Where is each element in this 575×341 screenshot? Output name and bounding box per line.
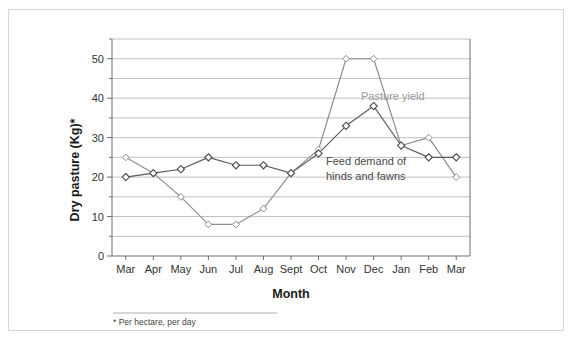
y-tick-label: 10 [92, 211, 104, 223]
x-tick-label: Jan [392, 263, 410, 275]
x-tick-label: Jul [229, 263, 243, 275]
data-point-marker [425, 154, 432, 161]
figure-frame: 01020304050 MarAprMayJunJulAugSeptOctNov… [8, 9, 564, 331]
data-point-marker [233, 221, 240, 228]
data-point-marker [232, 162, 239, 169]
x-axis-ticks-group: MarAprMayJunJulAugSeptOctNovDecJanFebMar [116, 256, 466, 275]
data-point-marker [453, 174, 460, 181]
x-tick-label: Jun [200, 263, 218, 275]
data-point-marker [260, 162, 267, 169]
chart-area: 01020304050 MarAprMayJunJulAugSeptOctNov… [9, 10, 565, 332]
y-tick-label: 30 [92, 132, 104, 144]
x-tick-label: May [170, 263, 191, 275]
annotation-pasture-yield: Pasture yield [361, 90, 425, 102]
y-tick-label: 20 [92, 171, 104, 183]
y-tick-label: 0 [98, 250, 104, 262]
annotation-feed-demand-line1: Feed demand of [326, 155, 407, 167]
y-tick-label: 40 [92, 92, 104, 104]
x-tick-label: Mar [447, 263, 466, 275]
series-markers-feed-demand [122, 102, 460, 180]
x-tick-label: Mar [116, 263, 135, 275]
data-point-marker [425, 134, 432, 141]
data-point-marker [398, 142, 405, 149]
footnote-text: * Per hectare, per day [113, 317, 196, 327]
data-point-marker [205, 154, 212, 161]
y-axis-ticks-group: 01020304050 [92, 39, 112, 262]
y-axis-title: Dry pasture (Kg)* [68, 118, 82, 221]
data-point-marker [177, 166, 184, 173]
x-tick-label: Aug [254, 263, 274, 275]
y-tick-label: 50 [92, 53, 104, 65]
line-chart: 01020304050 MarAprMayJunJulAugSeptOctNov… [9, 10, 565, 332]
data-point-marker [343, 55, 350, 62]
series-line-pasture-yield [126, 59, 456, 225]
annotation-feed-demand-line2: hinds and fawns [326, 170, 406, 182]
gridlines-group [112, 39, 470, 236]
x-tick-label: Feb [419, 263, 438, 275]
data-point-marker [370, 102, 377, 109]
series-line-feed-demand [126, 106, 456, 177]
x-tick-label: Apr [145, 263, 162, 275]
x-axis-title: Month [272, 287, 309, 301]
x-tick-label: Oct [310, 263, 327, 275]
x-tick-label: Sept [280, 263, 303, 275]
x-tick-label: Dec [364, 263, 384, 275]
series-markers-pasture-yield [122, 55, 459, 228]
data-point-marker [453, 154, 460, 161]
data-point-marker [370, 55, 377, 62]
data-point-marker [122, 173, 129, 180]
data-point-marker [122, 154, 129, 161]
x-tick-label: Nov [336, 263, 356, 275]
